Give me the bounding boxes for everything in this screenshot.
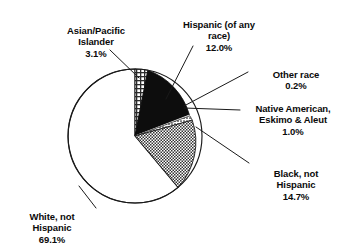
slice-label-white-name: White, not Hispanic [30,211,75,233]
slice-label-black-name: Black, not Hispanic [274,168,318,190]
slice-label-other-value: 0.2% [252,80,340,91]
slice-label-white-not-hispanic: White, not Hispanic 69.1% [6,200,98,251]
leader-line-other-race [184,72,248,106]
slice-label-hispanic: Hispanic (of any race) 12.0% [170,8,268,64]
slice-label-asian-name: Asian/Pacific Islander [67,25,125,47]
slice-label-black-not-hispanic: Black, not Hispanic 14.7% [253,157,339,213]
leader-line-native-american [184,108,240,110]
slice-label-hispanic-name: Hispanic (of any race) [183,19,255,41]
leader-line-black [196,127,249,163]
slice-label-native-name: Native American, Eskimo & Aleut [255,103,330,125]
slice-label-asian-value: 3.1% [48,48,144,59]
slice-label-white-value: 69.1% [6,234,98,245]
slice-label-black-value: 14.7% [253,191,339,202]
pie-chart-figure: Asian/Pacific Islander 3.1% Hispanic (of… [0,0,345,251]
slice-label-native-value: 1.0% [243,126,343,137]
slice-label-hispanic-value: 12.0% [170,42,268,53]
slice-label-asian-pacific-islander: Asian/Pacific Islander 3.1% [48,14,144,70]
slice-label-native-american: Native American, Eskimo & Aleut 1.0% [243,92,343,148]
slice-label-other-name: Other race [273,69,320,80]
